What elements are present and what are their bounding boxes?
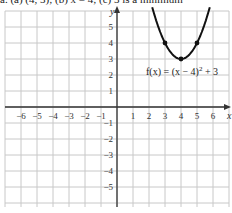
- parabola-chart: xy −6−5−4−3−2−112345654321−1−2−3−4−5 f(x…: [0, 0, 232, 213]
- y-tick-label: −5: [103, 182, 113, 192]
- x-tick-label: −6: [16, 111, 26, 121]
- x-axis-label: x: [226, 110, 232, 121]
- x-tick-label: 4: [179, 111, 184, 121]
- y-tick-label: 4: [109, 38, 114, 48]
- y-tick-label: 3: [109, 54, 114, 64]
- y-axis-label: y: [109, 6, 115, 17]
- x-tick-label: 1: [131, 111, 136, 121]
- axes: xy: [5, 6, 232, 207]
- x-tick-label: 5: [195, 111, 200, 121]
- x-tick-label: −2: [80, 111, 90, 121]
- y-tick-label: −4: [103, 166, 113, 176]
- x-tick-label: 6: [211, 111, 216, 121]
- x-tick-label: 3: [163, 111, 168, 121]
- x-tick-label: −4: [48, 111, 58, 121]
- y-tick-label: −3: [103, 150, 113, 160]
- y-tick-label: 5: [109, 22, 114, 32]
- y-axis-arrow-icon: [114, 6, 120, 13]
- data-point: [163, 41, 168, 46]
- data-point: [195, 41, 200, 46]
- y-tick-label: −1: [103, 118, 113, 128]
- function-label: f(x) = (x − 4)2 + 3: [146, 65, 218, 78]
- x-tick-label: −5: [32, 111, 42, 121]
- x-tick-label: 2: [147, 111, 152, 121]
- y-tick-label: 2: [109, 70, 114, 80]
- y-tick-label: −2: [103, 134, 113, 144]
- data-point: [179, 57, 184, 62]
- x-tick-label: −3: [64, 111, 74, 121]
- y-tick-label: 1: [109, 86, 114, 96]
